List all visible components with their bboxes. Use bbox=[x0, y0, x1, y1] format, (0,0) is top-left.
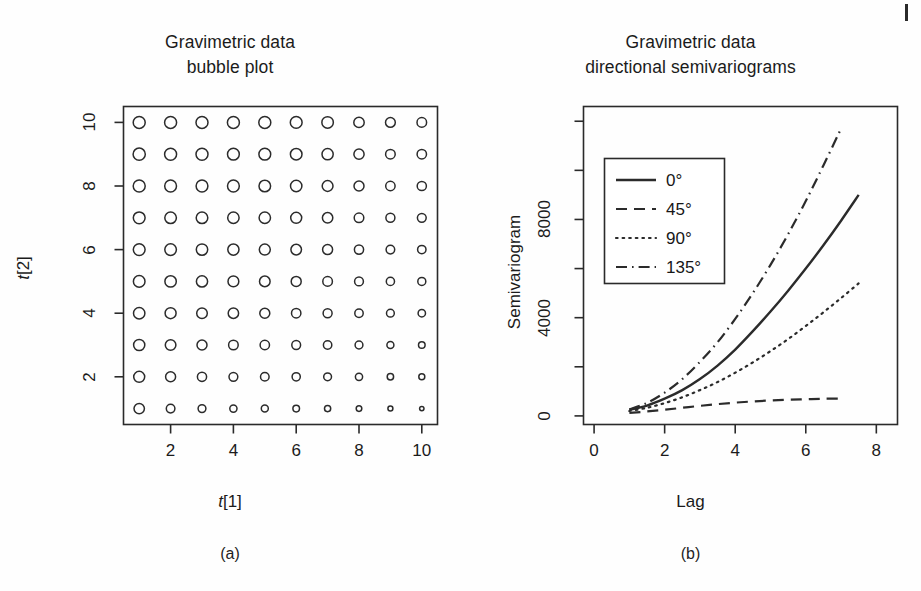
bubble-marker bbox=[165, 148, 177, 160]
bubble-marker bbox=[324, 373, 332, 381]
y-tick-label: 8000 bbox=[535, 179, 555, 259]
legend-label-0deg: 0° bbox=[666, 171, 682, 190]
x-tick-label: 8 bbox=[851, 441, 901, 461]
bubble-marker bbox=[198, 405, 206, 413]
bubble-marker bbox=[228, 180, 240, 192]
bubble-marker bbox=[417, 213, 426, 222]
y-tick-label: 2 bbox=[80, 352, 100, 402]
bubble-marker bbox=[229, 340, 239, 350]
bubble-marker bbox=[165, 308, 176, 319]
semivariogram-legend: 0°45°90°135° bbox=[605, 159, 725, 284]
bubble-marker bbox=[386, 245, 395, 254]
bubble-marker bbox=[355, 277, 364, 286]
x-tick-label: 6 bbox=[271, 441, 321, 461]
bubble-marker bbox=[354, 245, 363, 254]
bubble-marker bbox=[386, 213, 395, 222]
x-tick-label: 4 bbox=[208, 441, 258, 461]
bubble-marker bbox=[259, 244, 270, 255]
bubble-marker bbox=[260, 276, 271, 287]
bubble-plot-frame bbox=[124, 107, 438, 425]
bubble-marker bbox=[229, 372, 238, 381]
bubble-marker bbox=[228, 148, 240, 160]
bubble-marker bbox=[291, 180, 302, 191]
bubble-marker bbox=[196, 212, 208, 224]
bubble-marker bbox=[387, 374, 393, 380]
bubble-marker bbox=[290, 148, 302, 160]
bubble-marker bbox=[228, 212, 239, 223]
bubble-marker bbox=[196, 244, 207, 255]
x-tick-label: 10 bbox=[397, 441, 447, 461]
bubble-marker bbox=[386, 149, 396, 159]
bubble-marker bbox=[417, 118, 427, 128]
x-tick-label: 2 bbox=[640, 441, 690, 461]
bubble-marker bbox=[418, 245, 426, 253]
y-tick-label: 8 bbox=[80, 161, 100, 211]
bubble-marker bbox=[165, 276, 176, 287]
bubble-marker bbox=[197, 372, 206, 381]
bubble-marker bbox=[228, 244, 239, 255]
bubble-marker bbox=[166, 404, 175, 413]
bubble-marker bbox=[166, 372, 176, 382]
bubble-marker bbox=[291, 244, 302, 255]
y-tick-label: 4 bbox=[80, 288, 100, 338]
bubble-marker bbox=[355, 309, 363, 317]
bubble-marker bbox=[417, 181, 426, 190]
bubble-marker bbox=[354, 117, 364, 127]
legend-label-135deg: 135° bbox=[666, 258, 701, 277]
bubble-plot-y-axis-title: t[2] bbox=[14, 198, 34, 338]
bubble-marker bbox=[293, 405, 300, 412]
x-tick-label: 4 bbox=[710, 441, 760, 461]
bubble-marker bbox=[388, 406, 393, 411]
bubble-marker bbox=[355, 341, 363, 349]
bubble-marker bbox=[165, 212, 177, 224]
legend-box bbox=[605, 159, 725, 284]
bubble-marker bbox=[419, 374, 425, 380]
bubble-marker bbox=[386, 181, 395, 190]
bubble-marker bbox=[165, 116, 177, 128]
bubble-marker bbox=[261, 405, 268, 412]
bubble-marker bbox=[197, 340, 207, 350]
bubble-marker bbox=[291, 276, 301, 286]
bubble-marker bbox=[292, 309, 301, 318]
caption-b: (b) bbox=[460, 545, 921, 563]
panel-bubble-plot: Gravimetric data bubble plot 24681024681… bbox=[0, 0, 460, 591]
bubble-marker bbox=[322, 149, 333, 160]
y-tick-label: 6 bbox=[80, 225, 100, 275]
bubble-marker bbox=[259, 212, 270, 223]
bubble-marker bbox=[196, 276, 207, 287]
figure-container: Gravimetric data bubble plot 24681024681… bbox=[0, 0, 921, 591]
bubble-marker bbox=[291, 212, 302, 223]
bubble-marker bbox=[165, 340, 176, 351]
caption-a: (a) bbox=[0, 545, 460, 563]
bubble-plot-x-axis-title: t[1] bbox=[0, 492, 460, 512]
bubble-marker bbox=[354, 213, 364, 223]
bubble-marker bbox=[354, 149, 364, 159]
bubble-marker bbox=[227, 116, 239, 128]
bubble-marker bbox=[387, 342, 394, 349]
bubble-marker bbox=[133, 212, 145, 224]
bubble-marker bbox=[196, 116, 208, 128]
bubble-marker bbox=[386, 118, 396, 128]
bubble-marker bbox=[417, 150, 426, 159]
bubble-marker bbox=[323, 341, 331, 349]
bubble-marker bbox=[322, 181, 333, 192]
bubble-marker bbox=[134, 308, 145, 319]
bubble-marker bbox=[418, 310, 425, 317]
bubble-marker bbox=[386, 277, 394, 285]
bubble-marker bbox=[354, 181, 364, 191]
bubble-marker bbox=[260, 308, 270, 318]
x-tick-label: 0 bbox=[569, 441, 619, 461]
legend-label-90deg: 90° bbox=[666, 229, 692, 248]
page-edge-mark bbox=[905, 4, 908, 21]
bubble-marker bbox=[261, 373, 270, 382]
bubble-marker bbox=[323, 309, 332, 318]
y-tick-label: 10 bbox=[80, 97, 100, 147]
bubble-marker bbox=[322, 213, 332, 223]
bubble-marker bbox=[228, 308, 238, 318]
panel-semivariogram: Gravimetric data directional semivariogr… bbox=[460, 0, 921, 591]
legend-label-45deg: 45° bbox=[666, 200, 692, 219]
bubble-marker bbox=[387, 309, 395, 317]
bubble-marker bbox=[290, 117, 302, 129]
bubble-marker bbox=[230, 405, 237, 412]
bubble-marker bbox=[418, 277, 426, 285]
